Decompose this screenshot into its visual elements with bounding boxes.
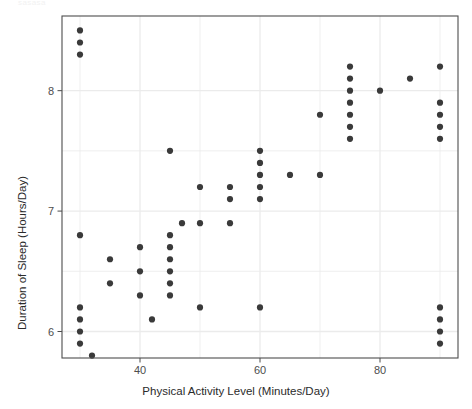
data-point [437,304,443,310]
data-point [77,304,83,310]
data-point [437,124,443,130]
plot-canvas: 406080678 [0,0,472,409]
data-point [257,148,263,154]
data-point [257,184,263,190]
data-point [77,39,83,45]
y-tick-label: 6 [48,326,54,338]
y-tick-label: 8 [48,85,54,97]
data-point [437,112,443,118]
data-point [107,256,113,262]
data-point [167,292,173,298]
data-point [437,328,443,334]
data-point [77,328,83,334]
data-point [347,88,353,94]
data-point [179,220,185,226]
data-point [437,316,443,322]
data-point [137,292,143,298]
data-point [167,244,173,250]
data-point [227,196,233,202]
data-point [347,112,353,118]
data-point [317,172,323,178]
x-axis-label: Physical Activity Level (Minutes/Day) [0,385,472,397]
data-point [347,124,353,130]
data-point [197,304,203,310]
data-point [77,27,83,33]
y-axis-label: Duration of Sleep (Hours/Day) [16,176,28,330]
data-point [167,256,173,262]
data-point [347,76,353,82]
data-point [437,136,443,142]
data-point [137,268,143,274]
y-tick-label: 7 [48,205,54,217]
data-point [287,172,293,178]
x-tick-label: 80 [374,364,386,376]
data-point [257,160,263,166]
data-point [107,280,113,286]
data-point [437,63,443,69]
data-point [257,304,263,310]
scatter-plot-figure: sasasa 406080678 Physical Activity Level… [0,0,472,409]
data-point [347,136,353,142]
data-point [77,340,83,346]
data-point [197,184,203,190]
data-point [437,340,443,346]
data-point [167,232,173,238]
data-point [437,100,443,106]
data-point [257,196,263,202]
data-point [197,220,203,226]
data-point [257,172,263,178]
data-point [227,184,233,190]
data-point [347,100,353,106]
faint-header-text: sasasa [18,0,46,7]
data-point [167,148,173,154]
data-point [77,316,83,322]
data-point [317,112,323,118]
x-tick-label: 60 [254,364,266,376]
data-point [407,76,413,82]
data-point [227,220,233,226]
data-point [149,316,155,322]
data-point [137,244,143,250]
data-point [77,51,83,57]
data-point [167,268,173,274]
x-tick-label: 40 [134,364,146,376]
data-point [77,232,83,238]
data-point [377,88,383,94]
data-point [167,280,173,286]
data-point [347,63,353,69]
